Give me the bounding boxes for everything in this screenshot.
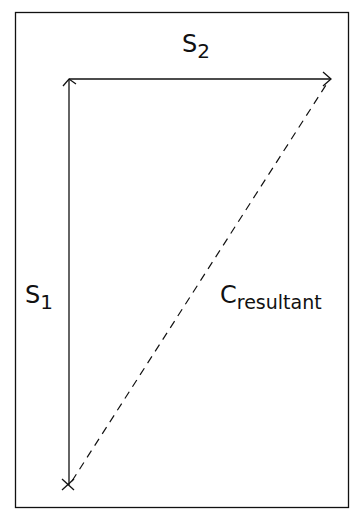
label-s1: S1 xyxy=(25,281,53,314)
diagram-canvas: S2 S1 Cresultant xyxy=(0,0,359,521)
label-s2: S2 xyxy=(182,30,210,63)
vector-diagram: S2 S1 Cresultant xyxy=(0,0,359,521)
resultant-dashed-line xyxy=(72,85,326,481)
frame-border xyxy=(16,13,349,508)
origin-x-marker-icon xyxy=(62,479,74,490)
label-resultant: Cresultant xyxy=(220,281,322,313)
